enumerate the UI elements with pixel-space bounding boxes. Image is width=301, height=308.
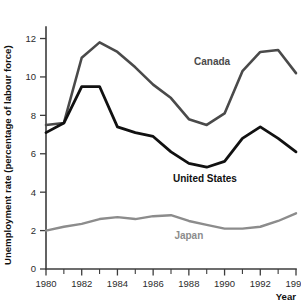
y-tick-label: 8: [31, 110, 36, 121]
y-axis-ticks: 024681012: [25, 33, 46, 274]
x-tick-label: 1986: [143, 278, 164, 289]
unemployment-line-chart: 024681012 198019821984198619881990199219…: [0, 0, 301, 308]
y-tick-label: 6: [31, 148, 36, 159]
series-line-japan: [46, 213, 296, 230]
y-tick-label: 2: [31, 225, 36, 236]
series-label-canada: Canada: [194, 56, 231, 67]
y-tick-label: 12: [25, 33, 36, 44]
chart-container: 024681012 198019821984198619881990199219…: [0, 0, 301, 308]
series-annotation-group: CanadaUnited StatesJapan: [173, 56, 237, 241]
y-tick-label: 4: [31, 187, 36, 198]
y-tick-label: 0: [31, 263, 36, 274]
x-tick-label: 1988: [178, 278, 199, 289]
x-tick-label: 1994: [285, 278, 301, 289]
data-series-group: [46, 42, 296, 230]
x-tick-label: 1984: [107, 278, 128, 289]
y-tick-label: 10: [25, 71, 36, 82]
x-tick-label: 1990: [214, 278, 235, 289]
series-line-canada: [46, 42, 296, 125]
x-axis-group: 19801982198419861988199019921994: [35, 269, 301, 289]
y-axis-group: 024681012: [25, 27, 46, 274]
x-tick-label: 1982: [71, 278, 92, 289]
x-axis-title: Year: [276, 291, 297, 302]
series-label-united-states: United States: [173, 173, 237, 184]
x-tick-label: 1992: [250, 278, 271, 289]
series-label-japan: Japan: [174, 230, 203, 241]
y-axis-title: Unemployment rate (percentage of labour …: [2, 45, 13, 265]
x-axis-ticks: 19801982198419861988199019921994: [35, 269, 301, 289]
x-tick-label: 1980: [35, 278, 56, 289]
